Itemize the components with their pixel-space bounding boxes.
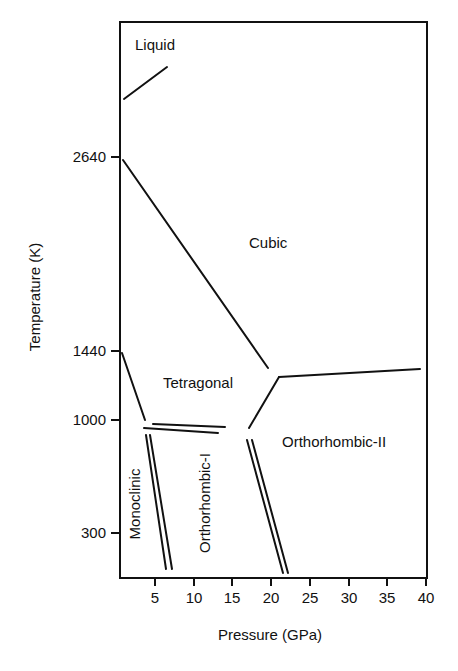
y-tick-label: 2640 (73, 148, 106, 165)
boundary-orthorhombic-i-ii-b (252, 440, 288, 573)
x-tick-label: 30 (341, 589, 358, 606)
boundary-tetragonal-orthorhombic-ii (249, 377, 279, 428)
y-axis-title: Temperature (K) (26, 243, 43, 351)
phase-diagram-chart: 2640 1440 1000 300 5 10 15 20 25 30 35 4… (0, 0, 458, 671)
boundary-tetragonal-lower-a (153, 424, 225, 427)
y-tick-label: 1440 (73, 342, 106, 359)
y-tick-label: 1000 (73, 411, 106, 428)
x-tick-label: 40 (418, 589, 435, 606)
region-label-liquid: Liquid (135, 36, 175, 53)
boundary-cubic-orthorhombic-ii (279, 369, 420, 377)
region-label-tetragonal: Tetragonal (163, 374, 233, 391)
x-tick-label: 10 (186, 589, 203, 606)
x-axis: 5 10 15 20 25 30 35 40 (151, 578, 435, 606)
boundary-liquid-cubic (124, 67, 167, 99)
y-tick-label: 300 (81, 524, 106, 541)
boundary-orthorhombic-i-ii-a (247, 440, 283, 573)
region-label-orthorhombic-ii: Orthorhombic-II (282, 433, 386, 450)
x-tick-label: 5 (151, 589, 159, 606)
x-tick-label: 20 (263, 589, 280, 606)
boundary-tetragonal-lower-b (144, 428, 218, 433)
boundary-monoclinic-orthorhombic-i-a (146, 435, 166, 569)
x-tick-label: 15 (224, 589, 241, 606)
plot-frame (120, 22, 427, 578)
y-axis: 2640 1440 1000 300 (73, 148, 120, 541)
region-label-orthorhombic-i: Orthorhombic-I (196, 453, 213, 553)
phase-boundaries (122, 67, 420, 573)
x-axis-title: Pressure (GPa) (218, 626, 322, 643)
boundary-monoclinic-orthorhombic-i-b (150, 435, 172, 569)
region-label-monoclinic: Monoclinic (126, 468, 143, 539)
region-label-cubic: Cubic (249, 234, 288, 251)
x-tick-label: 25 (302, 589, 319, 606)
x-tick-label: 35 (379, 589, 396, 606)
boundary-cubic-tetragonal (123, 160, 268, 368)
boundary-tetragonal-monoclinic (122, 353, 145, 420)
